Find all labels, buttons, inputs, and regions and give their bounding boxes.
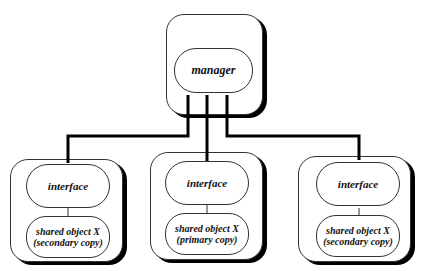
shared-object-label: shared object X — [33, 226, 103, 237]
shared-object-label: shared object X — [323, 225, 393, 236]
shared-object-box-left: shared object X (secondary copy) — [26, 216, 110, 258]
interface-box-right: interface — [316, 162, 400, 206]
interface-box-center: interface — [165, 161, 249, 205]
manager-label: manager — [191, 63, 235, 78]
shared-object-label: shared object X — [175, 223, 239, 234]
interface-label: interface — [187, 177, 227, 189]
copy-type-label: (secondary copy) — [323, 236, 393, 247]
interface-box-left: interface — [26, 164, 110, 208]
interface-label: interface — [48, 180, 88, 192]
copy-type-label: (primary copy) — [175, 234, 239, 245]
interface-label: interface — [338, 178, 378, 190]
manager-label-box: manager — [174, 48, 253, 93]
copy-type-label: (secondary copy) — [33, 237, 103, 248]
shared-object-box-center: shared object X (primary copy) — [165, 213, 249, 255]
shared-object-box-right: shared object X (secondary copy) — [316, 215, 400, 257]
